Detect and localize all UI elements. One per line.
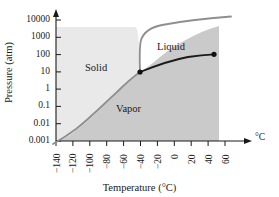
xtick-label-40: 40 (205, 155, 215, 165)
xtick-label-minus20: −20 (154, 154, 164, 169)
ytick-label-0.1: 0.1 (6, 102, 50, 112)
x-axis-title: Temperature (°C) (0, 183, 279, 194)
ytick-label-10000: 10000 (6, 15, 50, 25)
vapor-region-label: Vapor (116, 104, 141, 115)
y-axis-title: Pressure (atm) (4, 42, 15, 103)
y-axis-arrowhead (53, 9, 59, 17)
liquid-region-label: Liquid (157, 42, 185, 53)
phase-diagram-figure: 10000 1000 100 10 1 0.1 0.01 0.001 −140 … (0, 0, 279, 197)
ytick-label-0.01: 0.01 (6, 119, 50, 129)
x-axis-unit-label: °C (255, 133, 265, 143)
xtick-label-20: 20 (188, 155, 198, 165)
ytick-label-0.001: 0.001 (6, 136, 50, 146)
x-axis-arrowhead (244, 138, 252, 144)
xtick-label-minus100: −100 (86, 153, 96, 173)
critical-point-marker (211, 52, 216, 57)
triple-point-marker (137, 69, 142, 74)
ytick-label-1000: 1000 (6, 33, 50, 43)
xtick-label-minus140: −140 (53, 153, 63, 173)
x-axis-ticks (56, 141, 225, 146)
xtick-label-minus60: −60 (120, 154, 130, 169)
xtick-label-minus80: −80 (103, 154, 113, 169)
xtick-label-minus120: −120 (69, 153, 79, 173)
solid-region-label: Solid (85, 63, 107, 74)
xtick-label-0: 0 (171, 154, 181, 159)
xtick-label-minus40: −40 (137, 154, 147, 169)
xtick-label-60: 60 (222, 155, 232, 165)
